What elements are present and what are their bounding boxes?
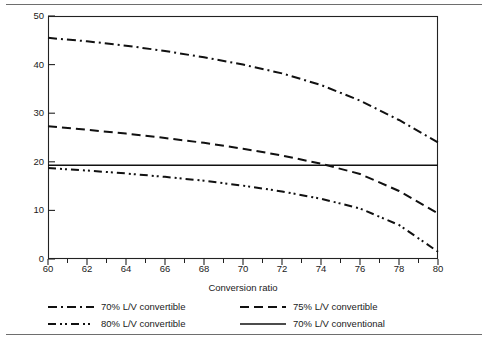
axis-ticks	[48, 16, 438, 265]
x-tick-label: 74	[316, 264, 327, 274]
bottom-divider-rule	[6, 334, 482, 335]
legend-line-swatch	[240, 319, 286, 329]
y-tick-label: 10	[33, 206, 44, 216]
legend-row: 80% L/V convertible70% L/V conventional	[48, 315, 448, 332]
chart-plot-svg	[48, 16, 438, 259]
plot-area: 01020304050 6062646668707274767880	[48, 16, 438, 259]
legend-line-swatch	[48, 319, 94, 329]
chart-legend: 70% L/V convertible75% L/V convertible80…	[48, 298, 448, 332]
y-tick-label: 40	[33, 60, 44, 70]
top-divider-rule	[6, 4, 482, 5]
x-tick-label: 76	[355, 264, 366, 274]
y-tick-label: 50	[33, 11, 44, 21]
legend-item[interactable]: 70% L/V convertible	[48, 301, 240, 312]
data-series-group	[48, 38, 438, 252]
legend-item[interactable]: 70% L/V conventional	[240, 318, 385, 329]
legend-label: 70% L/V conventional	[293, 318, 385, 329]
x-tick-label: 78	[394, 264, 405, 274]
plot-frame	[49, 17, 438, 259]
legend-item[interactable]: 80% L/V convertible	[48, 318, 240, 329]
x-tick-label: 60	[43, 264, 54, 274]
y-tick-label: 30	[33, 108, 44, 118]
x-tick-label: 66	[160, 264, 171, 274]
x-tick-label: 70	[238, 264, 249, 274]
series-line	[48, 168, 438, 252]
series-line	[48, 38, 438, 142]
x-tick-label: 64	[121, 264, 132, 274]
x-axis-title: Conversion ratio	[48, 282, 438, 293]
series-line	[48, 126, 438, 213]
legend-label: 80% L/V convertible	[101, 318, 186, 329]
y-tick-label: 20	[33, 157, 44, 167]
legend-line-swatch	[48, 302, 94, 312]
x-tick-label: 80	[433, 264, 444, 274]
legend-line-swatch	[240, 302, 286, 312]
legend-item[interactable]: 75% L/V convertible	[240, 301, 378, 312]
x-tick-label: 62	[82, 264, 93, 274]
legend-label: 75% L/V convertible	[293, 301, 378, 312]
legend-label: 70% L/V convertible	[101, 301, 186, 312]
legend-row: 70% L/V convertible75% L/V convertible	[48, 298, 448, 315]
figure-container: AT/RR on equity with growth at 3 percent…	[0, 0, 488, 344]
x-tick-label: 72	[277, 264, 288, 274]
x-tick-label: 68	[199, 264, 210, 274]
